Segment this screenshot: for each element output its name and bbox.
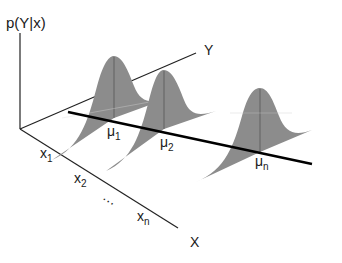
y-axis-label: Y <box>204 42 214 58</box>
gaussian-curve-n <box>196 88 312 182</box>
x-tick-2: x2 <box>74 170 87 189</box>
mean-label-1: μ1 <box>107 123 121 142</box>
mean-label-2: μ2 <box>160 134 174 153</box>
x-tick-n: xn <box>137 208 150 227</box>
x-axis-label: X <box>190 234 200 250</box>
x-axis <box>20 129 178 228</box>
regression-diagram: p(Y|x) Y X x1 x2 … xn μ1 μ2 μn <box>0 0 342 263</box>
density-axis-label: p(Y|x) <box>6 14 46 31</box>
mean-label-n: μn <box>255 153 269 172</box>
